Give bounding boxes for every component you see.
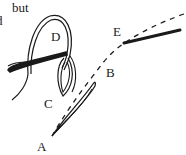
loop-d-tail	[12, 74, 28, 100]
cropped-text-line-1: but	[12, 1, 29, 14]
label-c: C	[44, 97, 53, 110]
thread-a-to-b-outer	[52, 82, 95, 136]
thread-e-segment	[124, 30, 180, 43]
line-drawing	[0, 0, 186, 155]
thread-a-to-b-inner	[54, 89, 92, 134]
label-e: E	[113, 25, 121, 38]
cropped-text-line-2: d	[0, 14, 3, 27]
knot-diagram: but d D E B C A	[0, 0, 186, 155]
small-loop-outer	[58, 58, 72, 96]
label-b: B	[106, 66, 115, 79]
label-d: D	[51, 30, 60, 43]
label-a: A	[37, 140, 46, 153]
